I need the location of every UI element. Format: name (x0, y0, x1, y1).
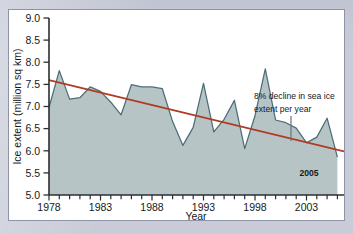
y-tick-label: 9.0 (25, 12, 40, 24)
y-tick-label: 8.0 (25, 56, 40, 68)
y-tick-label: 6.0 (25, 145, 40, 157)
y-tick-label: 5.5 (25, 167, 40, 179)
x-tick-label: 1998 (243, 201, 267, 213)
chart-panel: 9.0 8.5 8.0 7.5 7.0 6.5 6.0 5.5 5.0 (8, 9, 345, 221)
y-tick-label: 8.5 (25, 34, 40, 46)
trend-annotation-line-2: extent per year (254, 104, 311, 114)
x-tick-label: 1983 (89, 201, 113, 213)
x-tick-label: 1978 (37, 201, 61, 213)
x-tick-label: 2003 (295, 201, 319, 213)
x-tick-label: 1988 (140, 201, 164, 213)
y-axis-tick-labels: 9.0 8.5 8.0 7.5 7.0 6.5 6.0 5.5 5.0 (25, 12, 40, 201)
y-tick-label: 7.0 (25, 100, 40, 112)
screenshot-root: 9.0 8.5 8.0 7.5 7.0 6.5 6.0 5.5 5.0 (0, 0, 353, 234)
sea-ice-extent-chart: 9.0 8.5 8.0 7.5 7.0 6.5 6.0 5.5 5.0 (9, 10, 344, 220)
y-tick-label: 5.0 (25, 189, 40, 201)
year-annotation-2005: 2005 (299, 168, 318, 178)
y-axis-title: Ice extent (million sq km) (11, 48, 23, 164)
trend-annotation-line-1: 8% decline in sea ice (254, 91, 335, 101)
x-axis-title: Year (185, 210, 207, 221)
y-tick-label: 7.5 (25, 78, 40, 90)
y-tick-label: 6.5 (25, 122, 40, 134)
